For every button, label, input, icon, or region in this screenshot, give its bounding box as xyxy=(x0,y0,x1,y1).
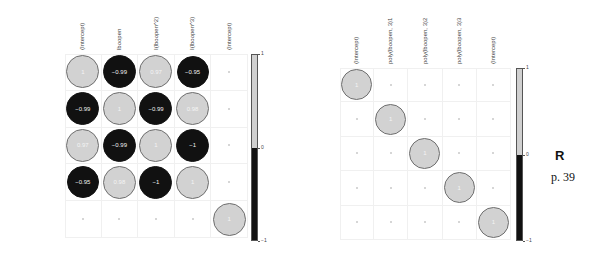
colorbar xyxy=(516,68,523,241)
matrix-cell xyxy=(477,137,511,171)
column-label: I(lboopen^3) xyxy=(189,17,195,50)
zero-dot xyxy=(192,218,194,220)
correlation-circle: 1 xyxy=(66,55,99,88)
correlation-circle: −0.95 xyxy=(177,56,209,88)
correlation-circle: −0.99 xyxy=(66,92,99,125)
correlation-circle: 1 xyxy=(478,207,509,238)
matrix-cell xyxy=(477,171,511,205)
matrix-cell xyxy=(374,137,408,171)
matrix-cell: 1 xyxy=(102,91,139,128)
correlation-value: 1 xyxy=(458,185,461,191)
colorbar-positive xyxy=(517,69,522,155)
correlation-value: 0.97 xyxy=(150,69,162,75)
matrix-cell xyxy=(175,201,212,238)
matrix-cell: −0.99 xyxy=(102,54,139,91)
correlation-circle: 0.97 xyxy=(66,129,99,162)
matrix-cell xyxy=(443,102,477,136)
matrix-cell xyxy=(138,201,175,238)
colorbar-tick-label: −1 xyxy=(261,237,267,243)
matrix-cell: 1 xyxy=(408,137,442,171)
matrix-cell: 1 xyxy=(340,68,374,102)
colorbar-tick-label: 1 xyxy=(526,64,529,70)
zero-dot xyxy=(118,218,120,220)
correlation-value: 1 xyxy=(81,69,84,75)
colorbar-tick xyxy=(523,68,525,69)
page-reference: p. 39 xyxy=(551,170,575,185)
correlation-circle: 1 xyxy=(213,203,246,236)
correlation-value: 1 xyxy=(228,216,231,222)
correlation-value: −0.99 xyxy=(148,106,163,112)
matrix-cell: −1 xyxy=(175,128,212,165)
correlation-value: 0.98 xyxy=(114,179,126,185)
matrix-cell: −0.99 xyxy=(102,128,139,165)
correlation-value: −0.99 xyxy=(112,69,127,75)
correlation-value: −1 xyxy=(189,142,196,148)
correlation-value: 1 xyxy=(118,106,121,112)
correlation-circle: 1 xyxy=(341,69,372,100)
correlation-value: 1 xyxy=(389,116,392,122)
column-label: I(lboopen^2) xyxy=(153,17,159,50)
zero-dot xyxy=(458,118,460,120)
correlation-circle: −0.99 xyxy=(103,129,136,162)
matrix-cell: −1 xyxy=(138,164,175,201)
margin-letter: R xyxy=(555,148,564,163)
zero-dot xyxy=(458,84,460,86)
column-label: (Intercept) xyxy=(353,37,359,64)
correlation-circle: 1 xyxy=(375,104,406,135)
matrix-cell xyxy=(408,68,442,102)
matrix-cell: −0.95 xyxy=(175,54,212,91)
matrix-cell: −0.99 xyxy=(65,91,102,128)
matrix-cell xyxy=(211,91,248,128)
matrix-cell: 0.98 xyxy=(102,164,139,201)
zero-dot xyxy=(356,152,358,154)
correlation-circle: 1 xyxy=(176,166,209,199)
matrix-cell xyxy=(65,201,102,238)
correlation-value: 1 xyxy=(154,142,157,148)
correlation-value: 1 xyxy=(191,179,194,185)
zero-dot xyxy=(458,152,460,154)
matrix-cell: 0.97 xyxy=(138,54,175,91)
zero-dot xyxy=(458,221,460,223)
colorbar-positive xyxy=(252,55,257,148)
colorbar-tick xyxy=(258,148,260,149)
zero-dot xyxy=(356,118,358,120)
matrix-cell: 1 xyxy=(175,164,212,201)
column-label: (Intercept) xyxy=(79,23,85,50)
correlation-value: 1 xyxy=(423,150,426,156)
colorbar-tick-label: 0 xyxy=(526,151,529,157)
correlation-circle: 0.97 xyxy=(139,55,172,88)
correlation-value: 1 xyxy=(355,82,358,88)
matrix-cell xyxy=(408,206,442,240)
correlation-value: 0.97 xyxy=(77,142,89,148)
zero-dot xyxy=(228,181,230,183)
correlation-circle: 1 xyxy=(139,129,172,162)
matrix-cell: −0.95 xyxy=(65,164,102,201)
colorbar-tick xyxy=(258,54,260,55)
column-label: poly(lboopen, 3)2 xyxy=(422,18,428,64)
matrix-cell: 0.98 xyxy=(175,91,212,128)
matrix-cell: 0.97 xyxy=(65,128,102,165)
correlation-value: −0.95 xyxy=(75,179,90,185)
matrix-cell xyxy=(340,102,374,136)
matrix-cell xyxy=(443,206,477,240)
matrix-cell xyxy=(102,201,139,238)
matrix-cell xyxy=(211,164,248,201)
matrix-cell xyxy=(374,206,408,240)
colorbar xyxy=(251,54,258,241)
matrix-cell: 1 xyxy=(138,128,175,165)
matrix-cell: 1 xyxy=(443,171,477,205)
zero-dot xyxy=(424,84,426,86)
colorbar-tick-label: −1 xyxy=(526,237,532,243)
correlation-circle: 1 xyxy=(103,92,136,125)
column-label: poly(lboopen, 3)1 xyxy=(387,18,393,64)
matrix-cell xyxy=(408,171,442,205)
column-label: (Intercept) xyxy=(490,37,496,64)
correlation-circle: −0.95 xyxy=(67,166,99,198)
zero-dot xyxy=(390,221,392,223)
colorbar-negative xyxy=(517,155,522,241)
zero-dot xyxy=(82,218,84,220)
correlation-value: 0.98 xyxy=(187,106,199,112)
zero-dot xyxy=(424,118,426,120)
zero-dot xyxy=(228,108,230,110)
matrix-cell xyxy=(477,68,511,102)
